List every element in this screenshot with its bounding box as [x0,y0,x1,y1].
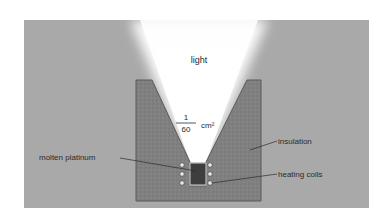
heating-coil-icon [180,172,185,177]
aperture-unit: cm² [201,121,215,130]
heating-coil-icon [180,181,185,186]
heating-coil-icon [208,163,213,168]
aperture-denominator: 60 [182,125,191,134]
heating-coil-icon [208,181,213,186]
light-label: light [191,55,208,65]
molten-platinum-crucible [190,163,206,185]
heating-coil-icon [208,172,213,177]
heating-coil-icon [180,163,185,168]
heating-coils-label: heating coils [278,170,322,179]
molten-platinum-label: molten platinum [39,153,96,162]
platinum-light-standard-diagram: light 1 60 cm² insulation molten platinu… [0,0,389,222]
aperture-numerator: 1 [184,113,189,122]
insulation-label: insulation [278,137,312,146]
